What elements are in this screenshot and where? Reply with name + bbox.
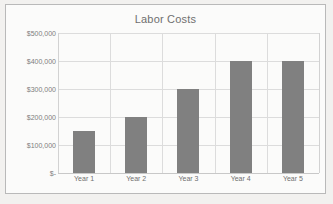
x-axis: Year 1Year 2Year 3Year 4Year 5 xyxy=(58,175,319,189)
chart-title: Labor Costs xyxy=(6,13,325,25)
x-axis-tick-label: Year 5 xyxy=(267,175,319,182)
y-axis-tick-label: $100,000 xyxy=(10,142,56,149)
bar[interactable] xyxy=(230,61,252,173)
axis-baseline xyxy=(58,173,319,174)
y-axis-tick-label: $300,000 xyxy=(10,86,56,93)
plot-area xyxy=(58,33,319,173)
y-axis: $500,000$400,000$300,000$200,000$100,000… xyxy=(6,33,56,173)
x-axis-tick-label: Year 4 xyxy=(215,175,267,182)
bar-slot xyxy=(215,33,267,173)
category-separator xyxy=(319,33,320,173)
y-axis-tick-label: $500,000 xyxy=(10,30,56,37)
bar[interactable] xyxy=(177,89,199,173)
bar[interactable] xyxy=(73,131,95,173)
x-axis-tick-label: Year 2 xyxy=(110,175,162,182)
bar[interactable] xyxy=(282,61,304,173)
y-axis-tick-label: $- xyxy=(10,170,56,177)
bar[interactable] xyxy=(125,117,147,173)
chart-container: Labor Costs $500,000$400,000$300,000$200… xyxy=(5,4,326,194)
bar-slot xyxy=(110,33,162,173)
x-axis-tick-label: Year 3 xyxy=(162,175,214,182)
bar-slot xyxy=(58,33,110,173)
y-axis-tick-label: $200,000 xyxy=(10,114,56,121)
x-axis-tick-label: Year 1 xyxy=(58,175,110,182)
y-axis-tick-label: $400,000 xyxy=(10,58,56,65)
bar-slot xyxy=(267,33,319,173)
bar-slot xyxy=(162,33,214,173)
